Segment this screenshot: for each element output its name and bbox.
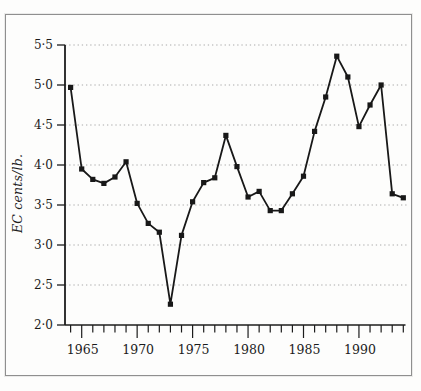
y-tick-label: 4·0 bbox=[34, 158, 53, 172]
x-tick-label: 1975 bbox=[178, 342, 210, 357]
data-point-marker bbox=[390, 191, 395, 196]
y-tick-label: 3·0 bbox=[34, 238, 53, 252]
data-point-marker bbox=[234, 164, 239, 169]
x-tick-label: 1965 bbox=[67, 342, 99, 357]
data-point-marker bbox=[190, 199, 195, 204]
y-tick-label: 5·5 bbox=[34, 38, 53, 52]
data-point-marker bbox=[334, 54, 339, 59]
data-point-marker bbox=[356, 124, 361, 129]
y-tick-label: 3·5 bbox=[34, 198, 53, 212]
data-point-marker bbox=[157, 230, 162, 235]
data-point-marker bbox=[168, 302, 173, 307]
data-point-marker bbox=[101, 181, 106, 186]
x-tick-label: 1990 bbox=[344, 342, 376, 357]
data-point-marker bbox=[323, 94, 328, 99]
x-tick-label: 1985 bbox=[289, 342, 321, 357]
data-point-marker bbox=[179, 233, 184, 238]
data-point-marker bbox=[257, 189, 262, 194]
data-point-marker bbox=[112, 174, 117, 179]
data-point-marker bbox=[268, 208, 273, 213]
x-tick-label: 1970 bbox=[122, 342, 154, 357]
data-point-marker bbox=[201, 180, 206, 185]
y-tick-label: 4·5 bbox=[34, 118, 53, 132]
data-point-marker bbox=[146, 221, 151, 226]
data-point-marker bbox=[223, 133, 228, 138]
data-point-marker bbox=[345, 74, 350, 79]
data-point-marker bbox=[212, 175, 217, 180]
y-tick-label: 2·5 bbox=[34, 278, 53, 292]
data-point-marker bbox=[379, 82, 384, 87]
data-point-marker bbox=[68, 85, 73, 90]
data-point-marker bbox=[312, 129, 317, 134]
data-point-marker bbox=[245, 194, 250, 199]
data-point-marker bbox=[290, 191, 295, 196]
data-point-marker bbox=[79, 166, 84, 171]
x-tick-label: 1980 bbox=[233, 342, 265, 357]
data-line bbox=[71, 56, 404, 304]
data-point-marker bbox=[135, 201, 140, 206]
data-point-marker bbox=[367, 102, 372, 107]
price-line-chart: 2·02·53·03·54·04·55·05·51965197019751980… bbox=[0, 0, 421, 391]
data-point-marker bbox=[123, 159, 128, 164]
data-point-marker bbox=[279, 208, 284, 213]
data-point-marker bbox=[90, 177, 95, 182]
data-point-marker bbox=[301, 174, 306, 179]
data-point-marker bbox=[401, 195, 406, 200]
y-tick-label: 5·0 bbox=[34, 78, 53, 92]
y-tick-label: 2·0 bbox=[34, 318, 53, 332]
